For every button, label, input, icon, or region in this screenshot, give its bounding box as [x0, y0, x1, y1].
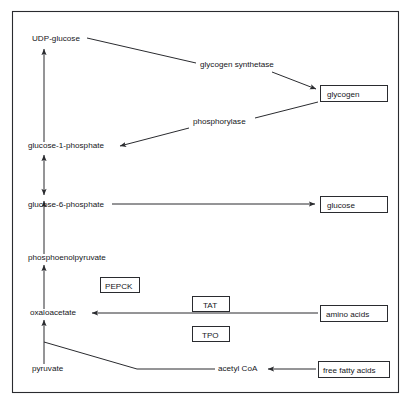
- label-acetyl-coa: acetyl CoA: [218, 364, 258, 373]
- label-glycogen-synthetase: glycogen synthetase: [200, 60, 274, 69]
- label-amino-acids: amino acids: [326, 310, 369, 319]
- label-oxaloacetate: oxaloacetate: [30, 308, 77, 317]
- label-glycogen: glycogen: [327, 90, 359, 99]
- arrow-glycogen-to-phosphorylase: [255, 102, 318, 118]
- label-tpo: TPO: [202, 331, 219, 340]
- label-phosphorylase: phosphorylase: [193, 117, 246, 126]
- arrow-phosphorylase-to-g1p: [120, 128, 189, 146]
- node-glucose: glucose: [321, 197, 388, 213]
- label-glucose-1-phosphate: glucose-1-phosphate: [28, 141, 104, 150]
- arrow-udp-glucose-to-synthetase: [87, 38, 196, 63]
- arrow-pyruvate-to-acetyl-coa: [44, 342, 215, 369]
- pathway-diagram: UDP-glucose glucose-1-phosphate glucose-…: [0, 0, 418, 411]
- node-amino-acids: amino acids: [321, 306, 388, 322]
- pathway-canvas: UDP-glucose glucose-1-phosphate glucose-…: [0, 0, 418, 411]
- node-free-fatty-acids: free fatty acids: [319, 362, 390, 378]
- label-glucose: glucose: [327, 201, 355, 210]
- label-pepck: PEPCK: [105, 282, 133, 291]
- node-pepck: PEPCK: [101, 278, 140, 293]
- label-glucose-6-phosphate: glucose-6-phosphate: [28, 200, 104, 209]
- label-phosphoenolpyruvate: phosphoenolpyruvate: [28, 253, 106, 262]
- label-pyruvate: pyruvate: [32, 364, 64, 373]
- label-udp-glucose: UDP-glucose: [32, 34, 80, 43]
- node-glycogen: glycogen: [321, 86, 388, 102]
- arrow-synthetase-to-glycogen: [272, 72, 316, 89]
- label-free-fatty-acids: free fatty acids: [323, 366, 376, 375]
- label-tat: TAT: [203, 301, 217, 310]
- node-tat: TAT: [193, 297, 230, 312]
- node-tpo: TPO: [193, 327, 230, 342]
